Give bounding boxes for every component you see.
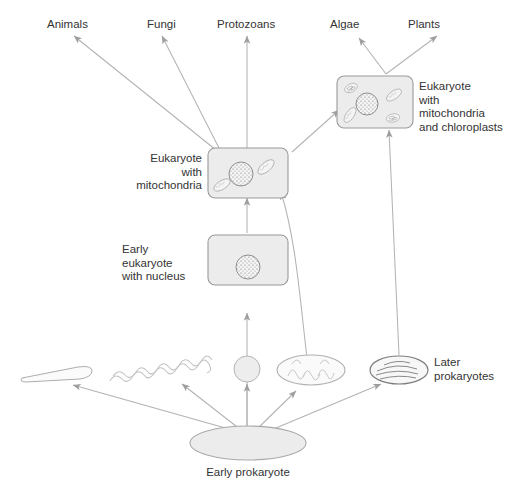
cyanobacterium-shape xyxy=(370,356,428,384)
label-later-prokaryotes: Later prokaryotes xyxy=(434,356,494,383)
nucleus xyxy=(236,255,260,279)
cell-eukaryote-with-mitochondria-and-chloroplasts xyxy=(337,76,413,128)
cell-early-eukaryote-with-nucleus xyxy=(208,235,288,285)
label-protozoans: Protozoans xyxy=(217,18,275,32)
prokaryote-forms-row xyxy=(21,355,428,385)
label-plants: Plants xyxy=(408,18,440,32)
cell-eukaryote-with-mitochondria xyxy=(208,148,288,198)
label-algae: Algae xyxy=(330,18,359,32)
early-prokaryote-shape xyxy=(190,426,306,460)
nucleus xyxy=(229,162,253,186)
label-early-prokaryote: Early prokaryote xyxy=(178,466,318,480)
label-eukaryote-with-mitochondria-and-chloroplasts: Eukaryote with mitochondria and chloropl… xyxy=(419,80,503,134)
proto-mitochondrion-shape xyxy=(277,355,345,385)
label-animals: Animals xyxy=(47,18,88,32)
nucleus xyxy=(356,93,378,115)
spiral-bacterium-shape xyxy=(110,356,212,381)
cell-shape-layer xyxy=(0,0,524,498)
label-fungi: Fungi xyxy=(147,18,176,32)
rod-bacterium-shape xyxy=(21,367,92,383)
label-early-eukaryote-with-nucleus: Early eukaryote with nucleus xyxy=(122,243,185,284)
diagram-canvas: Animals Fungi Protozoans Algae Plants Eu… xyxy=(0,0,524,498)
coccus-bacterium-shape xyxy=(234,356,260,382)
label-eukaryote-with-mitochondria: Eukaryote with mitochondria xyxy=(116,152,202,193)
